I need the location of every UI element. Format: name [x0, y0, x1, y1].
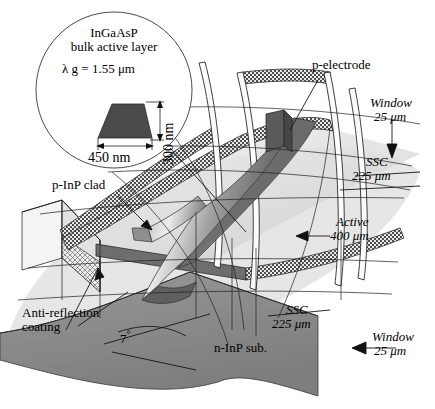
anti-reflection-line2: coating	[22, 320, 99, 334]
window-right-value: 25 μm	[370, 110, 412, 124]
ssc-right-label: SSC 225 μm	[352, 155, 391, 183]
inset-title-line2: bulk active layer	[62, 40, 166, 54]
anti-reflection-coating-label: Anti-reflection coating	[22, 306, 99, 334]
window-right-label: Window 25 μm	[370, 96, 412, 124]
window-bottom-label: Window 25 μm	[372, 330, 414, 358]
angle-label: 7°	[120, 330, 131, 346]
ssc-bottom-value: 225 μm	[272, 317, 311, 331]
angle-degree-symbol: °	[127, 329, 131, 340]
figure-canvas: InGaAsP bulk active layer λ g = 1.55 μm …	[0, 0, 435, 409]
p-inp-clad-label: p-InP clad	[52, 178, 105, 192]
ssc-right-value: 225 μm	[352, 169, 391, 183]
inset-title-line1: InGaAsP	[62, 26, 166, 40]
p-electrode-label: p-electrode	[312, 58, 370, 72]
window-right-name: Window	[370, 96, 412, 110]
p-electrode-tab	[266, 110, 292, 152]
anti-reflection-line1: Anti-reflection	[22, 306, 99, 320]
active-value: 400 μm	[330, 229, 369, 243]
window-bottom-value: 25 μm	[372, 344, 414, 358]
inset-width-label: 450 nm	[88, 150, 130, 165]
ssc-right-name: SSC	[352, 155, 391, 169]
inset-wavelength-label: λ g = 1.55 μm	[62, 62, 135, 76]
active-name: Active	[330, 215, 369, 229]
n-inp-sub-label: n-InP sub.	[214, 341, 267, 355]
inset-height-label: 300 nm	[161, 123, 176, 165]
ssc-bottom-label: SSC 225 μm	[272, 303, 311, 331]
window-bottom-name: Window	[372, 330, 414, 344]
active-label: Active 400 μm	[330, 215, 369, 243]
ssc-bottom-name: SSC	[272, 303, 311, 317]
inset-title: InGaAsP bulk active layer	[62, 26, 166, 54]
